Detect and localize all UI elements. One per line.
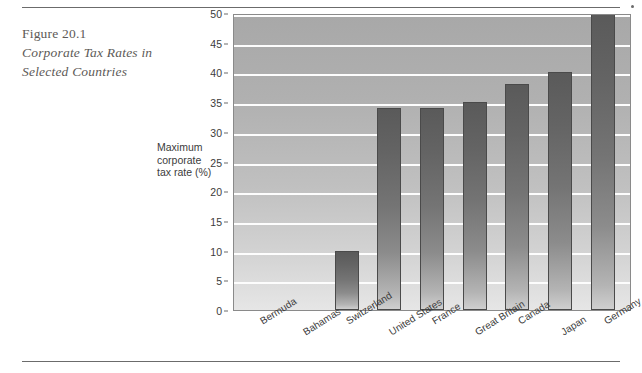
y-axis-tick-mark	[224, 162, 228, 163]
y-axis-tick-label: 50	[210, 8, 222, 20]
y-axis-tick-label: 5	[216, 275, 222, 287]
bar[interactable]	[548, 72, 572, 310]
x-axis-slot: Canada	[496, 311, 539, 361]
y-axis-tick-label: 40	[210, 67, 222, 79]
y-axis-tick-label: 25	[210, 157, 222, 169]
figure-title-line-2: Selected Countries	[22, 62, 192, 81]
x-axis-slot: Bahamas	[282, 311, 325, 361]
bar[interactable]	[463, 102, 487, 310]
bar-slot	[581, 15, 624, 310]
y-axis-tick-mark	[224, 281, 228, 282]
x-axis-slot: United States	[368, 311, 411, 361]
y-axis-tick-label: 10	[210, 246, 222, 258]
x-axis-tick-labels: BermudaBahamasSwitzerlandUnited StatesFr…	[233, 311, 631, 361]
x-axis-slot: Great Britain	[453, 311, 496, 361]
x-axis-slot: France	[411, 311, 454, 361]
y-axis-tick-mark	[224, 251, 228, 252]
bar-slot	[496, 15, 539, 310]
y-axis-tick-label: 45	[210, 38, 222, 50]
bar-slot	[240, 15, 283, 310]
chart-plot-area	[233, 14, 631, 311]
y-axis-tick-mark	[224, 192, 228, 193]
bar[interactable]	[591, 14, 615, 310]
bar-slot	[325, 15, 368, 310]
bar[interactable]	[420, 108, 444, 310]
y-axis-tick-label: 15	[210, 216, 222, 228]
bar[interactable]	[335, 251, 359, 310]
bar-slot	[368, 15, 411, 310]
figure-bottom-rule	[22, 361, 620, 362]
x-axis-slot: Germany	[582, 311, 625, 361]
bar-slot	[411, 15, 454, 310]
y-axis-tick-mark	[224, 73, 228, 74]
x-axis-slot: Japan	[539, 311, 582, 361]
y-axis-tick-mark	[224, 132, 228, 133]
x-axis-slot: Bermuda	[239, 311, 282, 361]
y-axis-tick-mark	[224, 311, 228, 312]
y-axis-tick-labels: 50454035302520151050	[196, 14, 228, 311]
figure-title-line-1: Corporate Tax Rates in	[22, 43, 192, 62]
figure-top-rule-end-dot	[631, 5, 634, 8]
bar[interactable]	[377, 108, 401, 310]
y-axis-tick-mark	[224, 103, 228, 104]
y-axis-tick-label: 30	[210, 127, 222, 139]
figure-caption: Figure 20.1 Corporate Tax Rates in Selec…	[22, 24, 192, 81]
y-axis-tick-mark	[224, 221, 228, 222]
y-axis-tick-label: 20	[210, 186, 222, 198]
bar-slot	[453, 15, 496, 310]
x-axis-slot: Switzerland	[325, 311, 368, 361]
bar-slot	[283, 15, 326, 310]
y-axis-tick-mark	[224, 43, 228, 44]
y-axis-tick-label: 35	[210, 97, 222, 109]
bar[interactable]	[505, 84, 529, 310]
y-axis-tick-label: 0	[216, 305, 222, 317]
y-axis-tick-mark	[224, 14, 228, 15]
bar-slot	[539, 15, 582, 310]
figure-number: Figure 20.1	[22, 24, 192, 43]
bar-series	[234, 15, 630, 310]
figure-top-rule	[22, 7, 620, 8]
